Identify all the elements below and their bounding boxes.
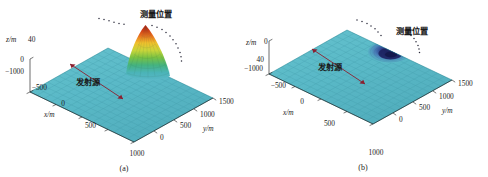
- y-axis-title-a: y/m: [202, 124, 214, 133]
- emission-source-label-b: 发射源: [317, 62, 343, 72]
- x-tick-1000-a: 1000: [130, 149, 145, 158]
- y-tick-1000-a: 1000: [200, 110, 215, 119]
- z-tick-40-a: 40: [28, 35, 36, 44]
- x-tick-0-b: 0: [300, 97, 304, 106]
- x-tick-neg1000-b: −1000: [244, 64, 263, 73]
- x-tick-500-b: 500: [324, 119, 335, 128]
- z-axis-b: [269, 39, 272, 74]
- x-tick-0-a: 0: [61, 99, 65, 108]
- figure-two-panel-surface-comparison: 测量位置 发射源 z/m 40 0: [0, 0, 488, 177]
- y-tick-500-a: 500: [180, 121, 191, 130]
- x-axis-title-b: x/m: [282, 108, 294, 117]
- panel-a: 测量位置 发射源 z/m 40 0: [0, 0, 244, 177]
- y-tick-0-b: 0: [399, 115, 403, 124]
- x-tick-neg500-b: −500: [271, 81, 287, 90]
- z-tick-0-b: 0: [264, 37, 268, 46]
- panel-b-canvas: 测量位置 发射源 z/m 0 40: [244, 0, 488, 177]
- emission-source-label-a: 发射源: [75, 77, 101, 87]
- measurement-position-label-b: 测量位置: [396, 26, 428, 36]
- y-tick-1500-b: 1500: [458, 79, 473, 88]
- y-tick-1000-b: 1000: [439, 92, 454, 101]
- panel-a-caption: (a): [120, 164, 129, 173]
- y-axis-title-b: y/m: [441, 106, 453, 115]
- y-tick-500-b: 500: [419, 103, 430, 112]
- z-tick-0-a: 0: [20, 55, 24, 64]
- x-tick-1000-b: 1000: [369, 148, 384, 157]
- depression-b: [368, 41, 412, 63]
- x-tick-500-a: 500: [85, 121, 96, 130]
- x-axis-title-a: x/m: [43, 110, 55, 119]
- z-axis-title-a: z/m: [5, 35, 17, 44]
- z-tick-40-b: 40: [257, 55, 265, 64]
- y-tick-0-a: 0: [160, 133, 164, 142]
- panel-b-caption: (b): [358, 163, 368, 172]
- measurement-position-label-a: 测量位置: [140, 9, 172, 19]
- panel-a-canvas: 测量位置 发射源 z/m 40 0: [0, 0, 244, 177]
- gaussian-peak-a: [126, 25, 170, 81]
- x-tick-neg1000-a: −1000: [5, 67, 24, 76]
- z-axis-title-b: z/m: [245, 38, 257, 47]
- panel-b: 测量位置 发射源 z/m 0 40: [244, 0, 488, 177]
- x-tick-neg500-a: −500: [32, 83, 48, 92]
- y-tick-1500-a: 1500: [219, 97, 234, 106]
